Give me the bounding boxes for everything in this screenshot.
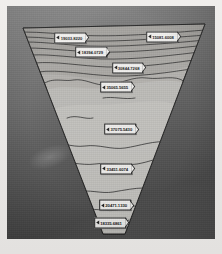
label-tail-fill [130,201,133,209]
contour-label: 20471.1330 [99,200,131,211]
contour-label-value: 30844.7268 [118,63,140,72]
contour-label: 15081.6008 [146,31,178,42]
contour-label: 19033.8220 [55,32,87,43]
label-tail-fill [135,125,138,133]
contour-label: 33451.6074 [100,163,132,174]
contour-label-value: 33451.6074 [106,164,128,173]
contour-label: 37075.5430 [105,124,137,135]
contour-label-value: 15081.6008 [152,32,174,41]
contour-label-value: 37075.5430 [111,125,133,134]
label-tail-fill [143,63,146,71]
contour-label: 30844.7268 [112,62,144,73]
contour-label: 18394.0729 [75,47,107,58]
contour-label-value: 35065.5655 [106,83,128,92]
label-tail-fill [125,218,128,226]
contour-label-value: 18394.0729 [81,48,103,57]
label-tail-fill [131,83,134,91]
plot-canvas: 19033.8220 15081.6008 18394.0729 30844.7… [7,6,215,239]
contour-label-value: 19033.8220 [61,33,83,42]
contour-label-value: 18335.6861 [100,218,122,227]
contour-label: 35065.5655 [100,82,132,93]
label-tail-fill [177,32,180,40]
contour-label: 18335.6861 [94,217,126,228]
label-tail-fill [85,33,88,41]
label-tail-fill [106,48,109,56]
contour-label-value: 20471.1330 [105,201,127,210]
label-tail-fill [131,164,134,172]
figure-page: 19033.8220 15081.6008 18394.0729 30844.7… [0,0,222,254]
